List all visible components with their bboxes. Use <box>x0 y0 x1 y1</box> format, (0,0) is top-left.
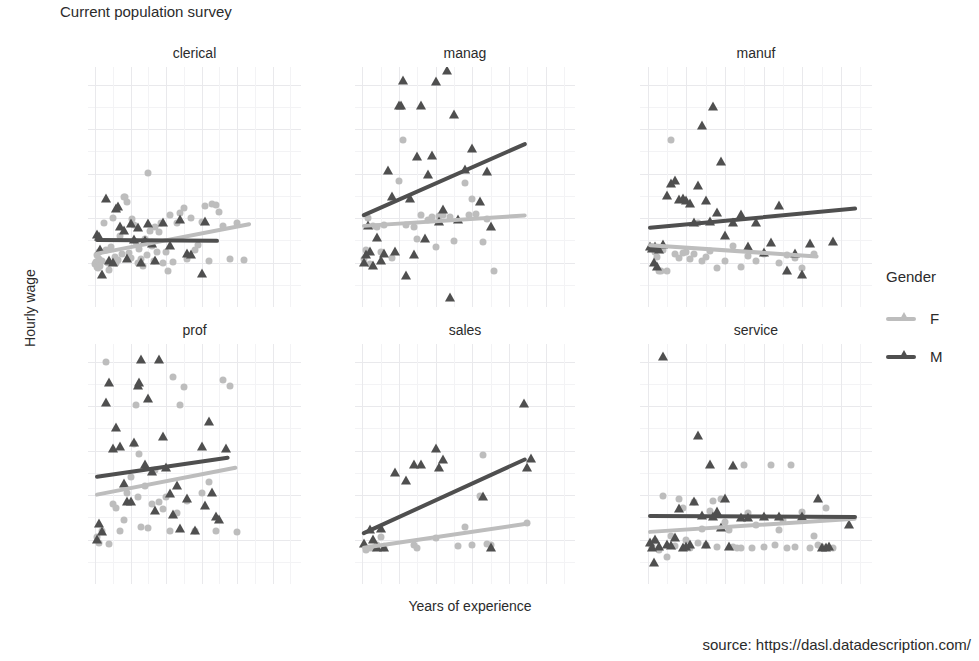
data-point-m <box>383 166 393 175</box>
x-axis-label: Years of experience <box>330 598 610 614</box>
data-point-m <box>379 248 389 257</box>
data-point-f <box>154 248 161 255</box>
data-point-m <box>708 102 718 111</box>
data-point-f <box>170 373 177 380</box>
gridline-horizontal <box>88 129 301 130</box>
gridline-vertical <box>725 67 726 307</box>
data-point-f <box>164 268 171 275</box>
data-point-m <box>449 110 459 119</box>
trend-line-m <box>95 456 230 480</box>
data-point-f <box>807 545 814 552</box>
data-point-f <box>156 499 163 506</box>
legend-item-M[interactable]: M <box>886 341 976 371</box>
data-point-f <box>166 527 173 534</box>
data-point-m <box>666 540 676 549</box>
data-point-m <box>165 489 175 498</box>
data-point-f <box>664 268 671 275</box>
data-point-f <box>124 199 131 206</box>
data-point-m <box>670 175 680 184</box>
data-point-m <box>190 525 200 534</box>
gridline-vertical <box>802 344 803 584</box>
gridline-horizontal <box>88 174 301 175</box>
gridline-vertical <box>399 344 400 584</box>
gridline-horizontal-minor <box>640 428 872 429</box>
gridline-vertical <box>95 344 96 584</box>
gridline-horizontal <box>88 85 301 86</box>
facet-sales: sales01020304050 <box>355 322 575 584</box>
data-point-f <box>660 493 667 500</box>
legend-key-marker-icon <box>899 350 909 359</box>
legend-title: Gender <box>886 268 976 285</box>
gridline-vertical <box>841 67 842 307</box>
data-point-m <box>175 214 185 223</box>
facet-title-clerical: clerical <box>88 45 301 61</box>
data-point-f <box>145 525 152 532</box>
data-point-m <box>716 157 726 166</box>
data-point-f <box>451 238 458 245</box>
gridline-vertical <box>362 67 363 307</box>
gridline-vertical-minor <box>148 67 149 307</box>
gridline-vertical <box>546 344 547 584</box>
data-point-f <box>737 264 744 271</box>
gridline-horizontal-minor <box>640 473 872 474</box>
legend-key-triangle-icon <box>886 349 916 363</box>
gridline-horizontal-minor <box>355 107 575 108</box>
data-point-f <box>180 205 187 212</box>
gridline-horizontal <box>640 85 872 86</box>
data-point-m <box>420 234 430 243</box>
data-point-m <box>431 77 441 86</box>
gridline-horizontal <box>640 129 872 130</box>
facet-service: service01020304050 <box>640 322 872 584</box>
data-point-m <box>143 394 153 403</box>
data-point-f <box>737 544 744 551</box>
facet-title-prof: prof <box>88 322 301 338</box>
data-point-m <box>412 151 422 160</box>
data-point-m <box>720 230 730 239</box>
data-point-m <box>207 488 217 497</box>
facet-title-manuf: manuf <box>640 45 872 61</box>
data-point-m <box>97 270 107 279</box>
data-point-f <box>106 541 113 548</box>
legend-entries: FM <box>886 303 976 371</box>
data-point-f <box>710 498 717 505</box>
panel-manag <box>355 67 575 307</box>
data-point-f <box>219 376 226 383</box>
data-point-f <box>432 243 439 250</box>
data-point-m <box>658 352 668 361</box>
data-point-m <box>689 497 699 506</box>
data-point-m <box>97 527 107 536</box>
data-point-f <box>791 543 798 550</box>
data-point-m <box>693 431 703 440</box>
gridline-horizontal <box>88 218 301 219</box>
data-point-f <box>722 257 729 264</box>
legend-item-F[interactable]: F <box>886 303 976 333</box>
gridline-vertical <box>509 67 510 307</box>
gridline-horizontal <box>355 495 575 496</box>
data-point-m <box>486 543 496 552</box>
data-point-m <box>133 222 143 231</box>
data-point-f <box>163 248 170 255</box>
facet-manag: manag <box>355 45 575 307</box>
gridline-vertical-minor <box>290 67 291 307</box>
gridline-horizontal <box>355 85 575 86</box>
gridline-vertical-minor <box>381 67 382 307</box>
panel-clerical: $0$5$10$15$20$25 <box>88 67 301 307</box>
data-point-m <box>111 422 121 431</box>
gridline-horizontal-minor <box>640 151 872 152</box>
gridline-vertical <box>841 344 842 584</box>
gridline-vertical <box>436 67 437 307</box>
data-point-m <box>168 509 178 518</box>
data-point-f <box>145 169 152 176</box>
data-point-m <box>409 250 419 259</box>
data-point-m <box>427 150 437 159</box>
gridline-vertical <box>686 67 687 307</box>
legend-key-marker-icon <box>899 312 909 321</box>
data-point-m <box>824 541 834 550</box>
page-title: Current population survey <box>60 3 232 20</box>
data-point-f <box>109 215 116 222</box>
data-point-f <box>120 517 127 524</box>
data-point-f <box>198 490 205 497</box>
data-point-m <box>685 198 695 207</box>
gridline-vertical-minor <box>527 67 528 307</box>
gridline-horizontal <box>640 451 872 452</box>
